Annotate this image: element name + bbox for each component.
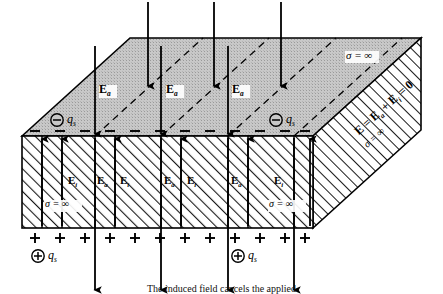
circled-plus-icon <box>232 250 244 262</box>
conductor-slab-figure <box>0 0 443 294</box>
circled-minus-icon <box>51 114 63 126</box>
figure-caption: The induced field cancels the applied <box>0 283 443 294</box>
circled-plus-icon <box>32 250 44 262</box>
positive-charge-row <box>30 233 310 243</box>
circled-minus-icon <box>270 114 282 126</box>
front-face <box>22 136 313 228</box>
